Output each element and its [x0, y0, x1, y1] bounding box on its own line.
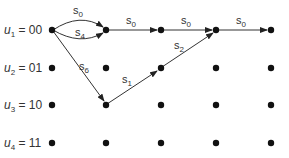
edge-label-s0-col1: s0: [126, 14, 137, 29]
edge-label-s0-col3: s0: [236, 14, 247, 29]
edge-label-s2: s2: [174, 39, 185, 54]
svg-text:u1 = 00: u1 = 00: [4, 23, 43, 39]
edge-s2: [162, 33, 213, 67]
svg-text:u4 = 11: u4 = 11: [4, 136, 42, 152]
trellis-diagram: u1 = 00 u2 = 01 u3 = 10 u4 = 11 s0 s4 s6…: [0, 0, 289, 158]
state-label-u4: u4 = 11: [4, 136, 42, 152]
state-label-u3: u3 = 10: [4, 98, 43, 114]
edge-label-s6: s6: [79, 60, 90, 75]
state-label-u2: u2 = 01: [4, 61, 43, 77]
trellis-nodes: [49, 27, 274, 146]
edge-label-s0-col2: s0: [181, 14, 192, 29]
edge-label-s1: s1: [122, 73, 133, 88]
edge-s1: [107, 71, 157, 104]
svg-text:u2 = 01: u2 = 01: [4, 61, 43, 77]
edge-label-s0-top: s0: [73, 4, 84, 19]
state-label-u1: u1 = 00: [4, 23, 43, 39]
svg-text:u3 = 10: u3 = 10: [4, 98, 43, 114]
